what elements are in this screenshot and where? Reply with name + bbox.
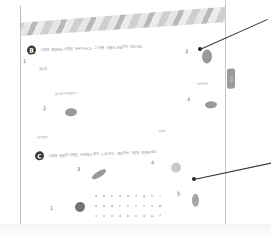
- grid-cell: z: [108, 214, 116, 218]
- spider-image: [75, 202, 85, 212]
- grid-cell: x: [92, 214, 100, 218]
- grid-cell: c: [132, 214, 140, 218]
- item-number: 4: [151, 159, 154, 165]
- grid-cell: e: [148, 214, 156, 218]
- bee-image: [192, 194, 199, 207]
- grid-cell: e: [124, 194, 132, 198]
- grid-cell: f: [132, 194, 140, 198]
- decorative-header-stripes: [21, 7, 225, 36]
- grid-cell: y: [100, 214, 108, 218]
- word-label: beetle: [197, 81, 208, 85]
- section-b-header: B 그림에 해당하는 낱말을 바르게 쓰고, 그 곤충 이름이 무엇인지 적으세…: [27, 42, 143, 55]
- grid-cell: w: [156, 204, 164, 208]
- mosquito-image: [171, 162, 181, 172]
- section-c-instruction: 그림에 알맞은 낱말을 아래에서 찾아 ○표 하고, 해당하는 그림과 연결하세…: [48, 149, 158, 158]
- grid-cell: i: [156, 194, 164, 198]
- grid-cell: f: [156, 214, 164, 218]
- grid-cell: g: [140, 194, 148, 198]
- grid-cell: v: [148, 204, 156, 208]
- fly-image: [205, 101, 217, 108]
- section-c-badge: C: [35, 151, 44, 160]
- grid-cell: s: [124, 204, 132, 208]
- grid-cell: p: [100, 204, 108, 208]
- bug-image: [65, 108, 77, 116]
- section-c-header: C 그림에 알맞은 낱말을 아래에서 찾아 ○표 하고, 해당하는 그림과 연결…: [35, 147, 158, 160]
- grid-cell: h: [148, 194, 156, 198]
- grid-cell: b: [124, 214, 132, 218]
- word-label: ant: [39, 65, 47, 71]
- bottom-fade: [0, 224, 271, 238]
- item-number: 1: [23, 58, 26, 64]
- grid-cell: o: [92, 204, 100, 208]
- item-number: 4: [187, 96, 190, 102]
- grid-cell: q: [108, 204, 116, 208]
- grid-cell: b: [100, 194, 108, 198]
- beetle-image: [202, 49, 212, 63]
- grid-cell: a: [92, 194, 100, 198]
- item-number: 3: [77, 166, 80, 172]
- grid-cell: d: [140, 214, 148, 218]
- item-number: 5: [177, 190, 180, 196]
- grid-cell: r: [116, 204, 124, 208]
- dragonfly-image: [91, 167, 108, 181]
- word-label: bee: [159, 129, 166, 133]
- item-number: 2: [43, 105, 46, 111]
- word-label: spider: [37, 135, 48, 139]
- item-number: 3: [185, 48, 188, 54]
- grid-cell: a: [116, 214, 124, 218]
- grid-cell: d: [116, 194, 124, 198]
- grid-cell: u: [140, 204, 148, 208]
- section-b-badge: B: [27, 45, 36, 54]
- grid-cell: t: [132, 204, 140, 208]
- item-number: 1: [50, 205, 53, 211]
- answer-tab: 정답: [227, 68, 235, 88]
- word-label: grasshopper: [55, 91, 77, 96]
- section-b-instruction: 그림에 해당하는 낱말을 바르게 쓰고, 그 곤충 이름이 무엇인지 적으세요.: [40, 44, 143, 53]
- grid-cell: c: [108, 194, 116, 198]
